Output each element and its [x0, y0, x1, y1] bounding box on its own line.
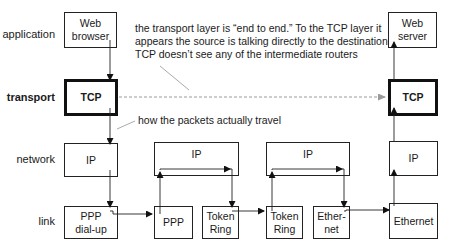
- router1-ppp-box: PPP: [154, 206, 193, 239]
- layer-label-network: network: [16, 153, 55, 165]
- dest-ethernet-box: Ethernet: [389, 203, 438, 239]
- end-to-end-callout-line: [160, 66, 189, 90]
- router1-token-ring-box: Token Ring: [202, 206, 239, 239]
- dest-tcp-box: TCP: [388, 79, 438, 116]
- end-to-end-note-line-3: TCP doesn’t see any of the intermediate …: [135, 48, 391, 61]
- source-ppp-dialup-box: PPP dial-up: [64, 206, 118, 239]
- dest-ip-box: IP: [389, 141, 438, 176]
- web-server-box: Web server: [388, 12, 437, 48]
- layer-label-application: application: [2, 28, 55, 40]
- source-tcp-box: TCP: [64, 79, 118, 116]
- router1-ip-box: IP: [154, 142, 239, 176]
- layer-label-transport: transport: [7, 91, 55, 103]
- web-browser-box: Web browser: [64, 12, 117, 48]
- layer-label-link: link: [38, 215, 55, 227]
- source-ip-box: IP: [64, 143, 118, 177]
- router2-ip-box: IP: [266, 142, 350, 176]
- packet-path-note: how the packets actually travel: [138, 114, 281, 127]
- router2-token-ring-box: Token Ring: [266, 206, 303, 239]
- end-to-end-note: the transport layer is “end to end.” To …: [135, 22, 391, 61]
- end-to-end-note-line-1: the transport layer is “end to end.” To …: [135, 22, 391, 35]
- packet-path-callout-line: [117, 121, 135, 129]
- end-to-end-note-line-2: appears the source is talking directly t…: [135, 35, 391, 48]
- router2-ethernet-box: Ether- net: [313, 206, 350, 239]
- ethernet-link-arrow: [344, 210, 389, 211]
